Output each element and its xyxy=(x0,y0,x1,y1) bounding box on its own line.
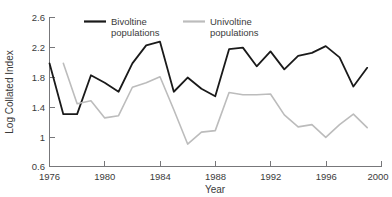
x-tick-label: 1980 xyxy=(94,171,115,182)
legend-label-univoltine-line1: Univoltine xyxy=(210,16,252,27)
y-axis-ticks xyxy=(50,18,56,167)
x-axis-title: Year xyxy=(205,184,226,195)
series-line-univoltine xyxy=(63,63,367,144)
x-axis-ticks xyxy=(50,161,382,167)
legend-label-univoltine-line2: populations xyxy=(210,27,259,38)
y-tick-label: 1.4 xyxy=(32,102,45,113)
line-chart: 2.6 2.2 1.8 1.4 1 0.6 1976 1980 1984 198… xyxy=(0,0,392,197)
chart-legend: Bivoltine populations Univoltine populat… xyxy=(84,16,259,38)
x-axis-tick-labels: 1976 1980 1984 1988 1992 1996 2000 xyxy=(39,171,389,182)
legend-label-bivoltine-line2: populations xyxy=(111,27,160,38)
legend-label-bivoltine-line1: Bivoltine xyxy=(111,16,147,27)
y-axis-title: Log Collated Index xyxy=(4,50,15,133)
y-tick-label: 2.6 xyxy=(32,12,45,23)
series-line-bivoltine xyxy=(50,42,368,115)
y-tick-label: 2.2 xyxy=(32,42,45,53)
y-tick-label: 1 xyxy=(40,132,45,143)
x-tick-label: 1976 xyxy=(39,171,60,182)
x-tick-label: 1984 xyxy=(150,171,171,182)
x-tick-label: 1992 xyxy=(260,171,281,182)
x-tick-label: 1988 xyxy=(205,171,226,182)
y-tick-label: 1.8 xyxy=(32,72,45,83)
x-tick-label: 1996 xyxy=(316,171,337,182)
y-axis-tick-labels: 2.6 2.2 1.8 1.4 1 0.6 xyxy=(32,12,45,172)
x-tick-label: 2000 xyxy=(367,171,388,182)
chart-figure: 2.6 2.2 1.8 1.4 1 0.6 1976 1980 1984 198… xyxy=(0,0,392,197)
